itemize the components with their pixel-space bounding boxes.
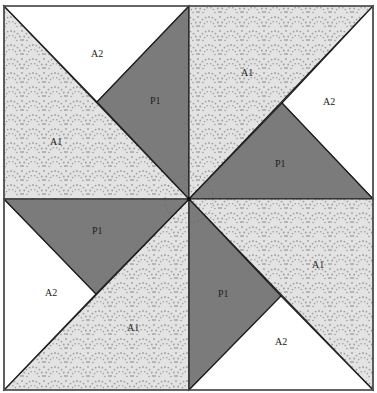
label-a2: A2 (275, 336, 287, 347)
quadrant-bottom-right: A1 P1 A2 (189, 199, 373, 390)
pinwheel-quilt-block: A2 P1 A1 A1 A2 P1 P1 A2 A1 A1 P1 A2 (0, 0, 377, 393)
label-a1: A1 (312, 259, 324, 270)
label-a2: A2 (45, 287, 57, 298)
label-a2: A2 (91, 48, 103, 59)
label-p1: P1 (275, 158, 286, 169)
label-a1: A1 (50, 136, 62, 147)
quadrant-top-left: A2 P1 A1 (4, 6, 189, 199)
center-point (187, 197, 191, 201)
label-a1: A1 (241, 67, 253, 78)
label-p1: P1 (218, 288, 229, 299)
quadrant-top-right: A1 A2 P1 (189, 6, 373, 199)
label-a2: A2 (323, 96, 335, 107)
label-p1: P1 (150, 95, 161, 106)
label-p1: P1 (92, 225, 103, 236)
label-a1: A1 (127, 322, 139, 333)
quadrant-bottom-left: P1 A2 A1 (4, 199, 189, 390)
